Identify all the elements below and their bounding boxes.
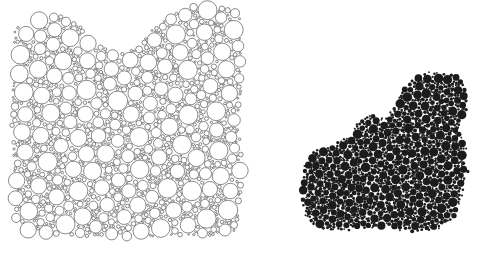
packed-circle (204, 196, 206, 198)
filled-disk (358, 172, 360, 174)
filled-disk (408, 83, 412, 87)
packed-circle (28, 141, 31, 144)
filled-disk (380, 192, 383, 195)
filled-disk (410, 169, 412, 171)
filled-disk (455, 115, 458, 118)
packed-circle (148, 180, 151, 183)
packed-circle (236, 102, 242, 108)
packed-circle (46, 37, 60, 51)
filled-disk (376, 192, 379, 195)
filled-disk (457, 124, 460, 127)
packed-circle (238, 194, 240, 196)
filled-disk (316, 149, 318, 151)
packed-circle (123, 106, 139, 122)
packed-circle (227, 14, 229, 16)
packed-circle (97, 145, 115, 163)
filled-disk (392, 199, 394, 201)
filled-disk (373, 182, 375, 184)
filled-disk (427, 156, 430, 159)
filled-disk (378, 177, 380, 179)
packed-circle (13, 148, 15, 150)
packed-circle (215, 210, 217, 212)
filled-disk (431, 187, 433, 189)
packed-circle (215, 43, 217, 45)
packed-circle (230, 143, 240, 153)
packed-circle (185, 214, 187, 216)
packed-circle (222, 121, 227, 126)
packed-circle (231, 108, 236, 113)
panel-left-circle-packing (0, 0, 253, 253)
packed-circle (70, 146, 74, 150)
packed-circle (162, 37, 164, 39)
packed-circle (194, 215, 196, 217)
filled-disk (455, 133, 457, 135)
filled-disk (438, 99, 444, 105)
filled-disk (398, 108, 400, 110)
packed-circle (199, 88, 201, 90)
packed-circle (228, 144, 230, 146)
packed-circle (141, 71, 153, 83)
packed-circle (154, 48, 157, 51)
packed-circle (168, 87, 184, 103)
packed-circle (30, 57, 32, 59)
packed-circle (214, 22, 216, 24)
packed-circle (169, 101, 171, 103)
filled-disk (390, 113, 394, 117)
packed-circle (226, 112, 230, 116)
filled-disk (455, 84, 457, 86)
packed-circle (114, 193, 123, 202)
filled-disk (327, 179, 330, 182)
filled-disk (359, 180, 361, 182)
filled-disk (335, 192, 337, 194)
packed-circle (158, 179, 178, 199)
packed-circle (136, 156, 138, 158)
filled-disk (435, 142, 441, 148)
filled-disk (419, 180, 421, 182)
filled-disk (396, 168, 398, 170)
filled-disk (328, 196, 330, 198)
filled-disk (340, 228, 343, 231)
packed-circle (145, 217, 151, 223)
packed-circle (75, 74, 83, 82)
packed-circle (118, 111, 122, 115)
packed-circle (154, 149, 156, 151)
filled-disk (410, 222, 412, 224)
filled-disk (373, 211, 376, 214)
packed-circle (200, 131, 202, 133)
filled-disk (416, 210, 418, 212)
filled-disk (402, 156, 404, 158)
packed-circle (29, 60, 47, 78)
packed-circle (216, 139, 217, 140)
packed-circle (39, 210, 45, 216)
filled-disk (399, 129, 401, 131)
packed-circle (13, 118, 18, 123)
packed-circle (151, 137, 154, 140)
packed-circle (73, 210, 75, 212)
packed-circle (205, 22, 207, 24)
filled-disk (359, 209, 366, 216)
packed-circle (154, 203, 157, 206)
filled-disk (386, 176, 390, 180)
packed-circle (18, 107, 34, 123)
filled-disk (447, 88, 449, 90)
packed-circle (94, 49, 97, 52)
filled-disk (316, 200, 319, 203)
filled-disk-group (299, 71, 470, 233)
filled-disk (370, 164, 373, 167)
packed-circle (25, 141, 27, 143)
filled-disk (443, 73, 446, 76)
filled-disk (340, 159, 342, 161)
packed-circle (37, 169, 40, 172)
packed-circle (53, 231, 59, 237)
filled-disk (450, 130, 453, 133)
packed-circle (23, 193, 24, 194)
packed-circle (122, 231, 132, 241)
filled-disk (462, 88, 466, 92)
packed-circle (187, 29, 194, 36)
filled-disk (305, 210, 307, 212)
packed-circle (168, 25, 170, 27)
packed-circle (102, 97, 107, 102)
packed-circle (119, 156, 121, 158)
filled-disk (442, 119, 444, 121)
filled-disk (397, 186, 401, 190)
